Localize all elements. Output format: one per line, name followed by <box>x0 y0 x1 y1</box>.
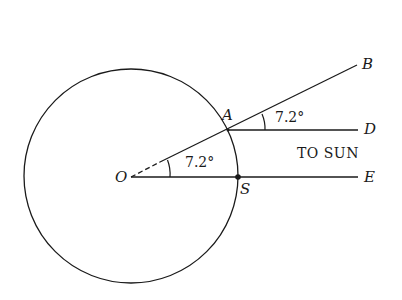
angle-arc-a <box>262 114 265 130</box>
angle-label-o: 7.2° <box>185 155 214 169</box>
label-b: B <box>362 57 373 72</box>
label-a: A <box>222 108 233 123</box>
angle-label-a: 7.2° <box>275 110 304 124</box>
label-s: S <box>240 182 250 197</box>
eratosthenes-diagram: O A S B D E 7.2° 7.2° TO SUN <box>0 0 402 300</box>
line-o-a-dashed <box>131 162 160 177</box>
to-sun-label: TO SUN <box>297 146 359 160</box>
angle-arc-o <box>168 160 171 177</box>
point-a-dot <box>227 129 230 132</box>
label-e: E <box>364 170 375 185</box>
label-o: O <box>115 170 127 185</box>
point-s-dot <box>235 174 241 180</box>
earth-circle <box>24 69 238 283</box>
label-d: D <box>364 122 376 137</box>
